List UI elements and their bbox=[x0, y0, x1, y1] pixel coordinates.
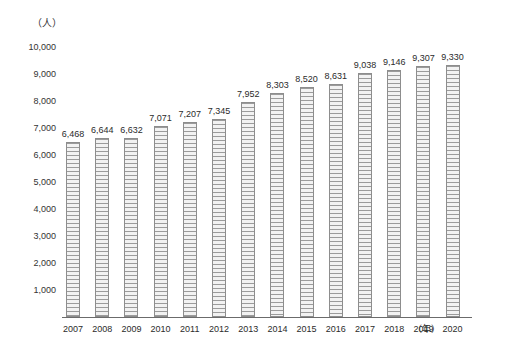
bar bbox=[66, 142, 80, 317]
y-axis-tick-label: 10,000 bbox=[8, 43, 56, 52]
bar bbox=[212, 119, 226, 317]
y-axis-tick-label: 9,000 bbox=[8, 70, 56, 79]
bar bbox=[446, 65, 460, 317]
bar bbox=[95, 138, 109, 317]
y-axis: 10,0009,0008,0007,0006,0005,0004,0003,00… bbox=[0, 0, 56, 355]
y-axis-tick-label: 4,000 bbox=[8, 205, 56, 214]
y-axis-tick-label: 6,000 bbox=[8, 151, 56, 160]
bar bbox=[329, 84, 343, 317]
y-axis-tick-label: 8,000 bbox=[8, 97, 56, 106]
bar bbox=[300, 87, 314, 317]
bar bbox=[387, 70, 401, 317]
bar bbox=[183, 122, 197, 317]
bar-value-label: 8,631 bbox=[319, 72, 353, 81]
bar bbox=[358, 73, 372, 317]
x-axis-line bbox=[62, 317, 472, 318]
y-axis-tick-label: 1,000 bbox=[8, 286, 56, 295]
bar bbox=[154, 126, 168, 317]
bar-chart: （人） 10,0009,0008,0007,0006,0005,0004,000… bbox=[0, 0, 510, 355]
y-axis-tick-label: 2,000 bbox=[8, 259, 56, 268]
bar bbox=[124, 138, 138, 317]
x-axis-tick-label: 2020 bbox=[436, 325, 470, 334]
y-axis-tick-label: 3,000 bbox=[8, 232, 56, 241]
bar bbox=[270, 93, 284, 317]
y-axis-tick-label: 5,000 bbox=[8, 178, 56, 187]
plot-area: 6,4686,6446,6327,0717,2077,3457,9528,303… bbox=[60, 0, 510, 355]
bar-value-label: 7,952 bbox=[231, 90, 265, 99]
bar bbox=[416, 66, 430, 317]
bar-value-label: 9,330 bbox=[436, 53, 470, 62]
bar-value-label: 6,632 bbox=[114, 126, 148, 135]
y-axis-tick-label: 7,000 bbox=[8, 124, 56, 133]
bar-value-label: 7,345 bbox=[202, 107, 236, 116]
bar bbox=[241, 102, 255, 317]
